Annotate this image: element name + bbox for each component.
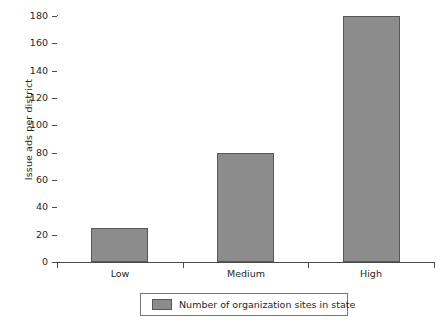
bar-high [343,16,400,262]
y-axis-tick-label: 120 [8,93,48,103]
y-axis-tick-label: 80 [8,148,48,158]
x-axis-tick-mark [434,263,435,268]
legend-entry-label: Number of organization sites in state [179,299,355,310]
plot-area [57,16,434,262]
y-axis-tick-label: 20 [8,230,48,240]
chart-legend: Number of organization sites in state [140,293,348,316]
y-axis-tick-label: 40 [8,202,48,212]
legend-color-swatch [152,299,172,310]
y-axis-tick-label: 100 [8,120,48,130]
bar-chart-figure: Issue ads per district 02040608010012014… [0,0,444,327]
y-axis-tick-label: 140 [8,66,48,76]
x-axis-tick-mark [183,263,184,268]
y-axis-tick-label: 180 [8,11,48,21]
x-axis-label-medium: Medium [196,268,296,280]
y-axis-tick-label: 160 [8,38,48,48]
x-axis-label-low: Low [70,268,170,280]
y-axis-tick-label: 0 [8,257,48,267]
x-axis-tick-mark [57,263,58,268]
x-axis-line [57,262,435,263]
bar-medium [217,153,274,262]
y-axis-tick-label: 60 [8,175,48,185]
x-axis-label-high: High [321,268,421,280]
x-axis-tick-mark [308,263,309,268]
bar-low [91,228,148,262]
